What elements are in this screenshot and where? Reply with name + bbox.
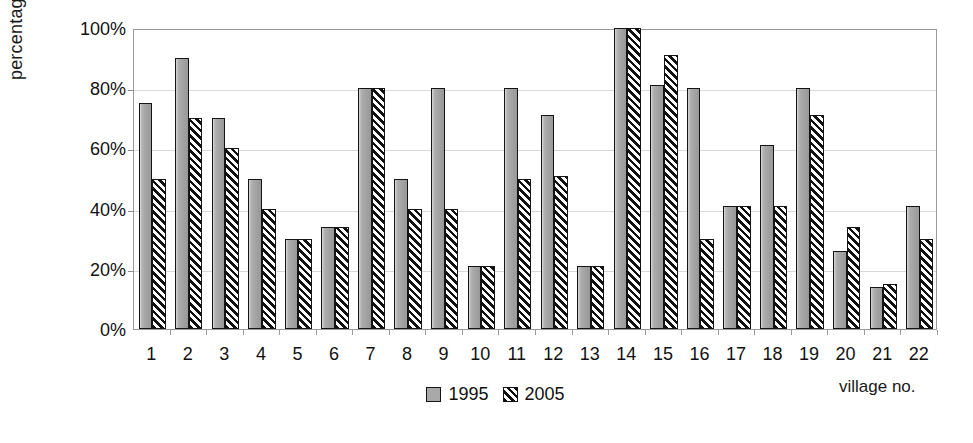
bar [541,115,555,329]
bar [372,88,386,329]
y-axis-tick-label: 20% [48,259,126,280]
bar [591,266,605,329]
bar [431,88,445,329]
x-axis-tick-label: 9 [439,344,449,365]
bar [700,239,714,329]
bar [212,118,226,329]
x-axis-tick-mark [170,330,171,335]
bar [504,88,518,329]
bar [248,179,262,330]
x-axis-tick-mark [718,330,719,335]
x-axis-tick-label: 14 [616,344,636,365]
x-axis-tick-mark [243,330,244,335]
bar [481,266,495,329]
x-axis-tick-label: 22 [909,344,929,365]
legend-item: 2005 [503,385,565,403]
y-axis-tick-label: 60% [48,139,126,160]
x-axis-tick-mark [462,330,463,335]
bar [335,227,349,329]
x-axis-tick-label: 4 [256,344,266,365]
x-axis-tick-label: 19 [799,344,819,365]
bar [298,239,312,329]
x-axis-tick-mark [498,330,499,335]
bar [906,206,920,329]
x-axis-tick-label: 6 [329,344,339,365]
legend-swatch-icon [426,387,441,402]
bar [577,266,591,329]
bar [664,55,678,329]
x-axis-tick-label: 11 [507,344,526,365]
bar [687,88,701,329]
bar [321,227,335,329]
x-axis-tick-mark [608,330,609,335]
x-axis-tick-mark [279,330,280,335]
x-axis-tick-label: 3 [219,344,229,365]
bar [614,28,628,329]
x-axis-tick-mark [316,330,317,335]
y-axis-tick-labels: 0%20%40%60%80%100% [48,0,126,443]
x-axis-tick-mark [352,330,353,335]
bar [394,179,408,330]
bar [152,179,166,330]
x-axis-tick-marks [133,330,937,336]
legend-swatch-icon [503,387,518,402]
x-axis-tick-mark [754,330,755,335]
x-axis-tick-mark [206,330,207,335]
y-axis-title: percentage [6,0,34,124]
x-axis-tick-label: 18 [763,344,783,365]
bar [358,88,372,329]
bar [810,115,824,329]
x-axis-tick-label: 12 [543,344,563,365]
y-axis-tick-label: 100% [48,19,126,40]
bar [445,209,459,329]
bar [774,206,788,329]
bar [627,28,641,329]
y-axis-tick-label: 0% [48,320,126,341]
bar [189,118,203,329]
x-axis-tick-mark [425,330,426,335]
bar [737,206,751,329]
bar [262,209,276,329]
x-axis-tick-label: 8 [402,344,412,365]
bar [408,209,422,329]
x-axis-tick-label: 15 [653,344,673,365]
x-axis-tick-mark [791,330,792,335]
x-axis-tick-label: 16 [689,344,709,365]
bar [139,103,153,329]
x-axis-tick-label: 10 [470,344,490,365]
bar [554,176,568,330]
bar [870,287,884,329]
x-axis-tick-mark [535,330,536,335]
y-axis-tick-label: 40% [48,199,126,220]
bars-layer [134,30,936,329]
x-axis-tick-label: 20 [836,344,856,365]
x-axis-tick-mark [827,330,828,335]
x-axis-tick-label: 5 [292,344,302,365]
x-axis-tick-label: 7 [366,344,376,365]
bar [796,88,810,329]
bar [650,85,664,329]
chart-legend: 19952005 [0,385,973,403]
y-axis-tick-label: 80% [48,79,126,100]
legend-label: 1995 [448,385,488,403]
x-axis-tick-label: 13 [580,344,600,365]
x-axis-tick-mark [389,330,390,335]
x-axis-tick-mark [900,330,901,335]
x-axis-tick-label: 2 [183,344,193,365]
plot-area [133,29,937,330]
x-axis-tick-mark [681,330,682,335]
bar-chart: percentage 0%20%40%60%80%100% 1234567891… [0,0,973,443]
bar [920,239,934,329]
x-axis-tick-labels: 12345678910111213141516171819202122 [133,344,937,370]
bar [883,284,897,329]
legend-item: 1995 [426,385,488,403]
legend-label: 2005 [525,385,565,403]
bar [285,239,299,329]
bar [847,227,861,329]
bar [225,148,239,329]
x-axis-tick-label: 1 [146,344,156,365]
bar [468,266,482,329]
x-axis-tick-mark [937,330,938,335]
bar [833,251,847,329]
x-axis-tick-mark [645,330,646,335]
